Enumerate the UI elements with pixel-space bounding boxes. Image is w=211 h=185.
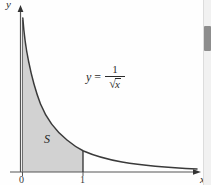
fraction-numerator: 1 — [109, 64, 121, 76]
equation-label: y = 1 √ x — [86, 64, 125, 91]
vertical-scrollbar-thumb[interactable] — [204, 26, 211, 51]
figure-container: y x S 0 1 y = 1 √ x — [0, 0, 211, 185]
equation-equals-sign: = — [94, 71, 101, 83]
x-tick-label-0: 0 — [19, 175, 24, 185]
radicand-variable: x — [115, 78, 121, 91]
square-root-icon: √ x — [109, 78, 120, 91]
equation-fraction: 1 √ x — [105, 64, 125, 91]
vertical-scrollbar-track[interactable] — [203, 0, 211, 185]
shaded-region-path — [23, 20, 84, 172]
equation-lhs: y — [86, 71, 91, 83]
plot-svg — [0, 0, 211, 185]
y-axis-arrowhead — [18, 5, 24, 12]
region-label-S: S — [44, 133, 50, 145]
y-axis-label: y — [6, 0, 11, 10]
x-tick-label-1: 1 — [80, 175, 85, 185]
fraction-denominator: √ x — [107, 77, 122, 91]
